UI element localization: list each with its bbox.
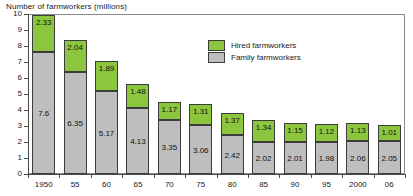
y-axis-tick-mark xyxy=(24,142,28,143)
y-axis-tick-label: 9 xyxy=(18,25,22,34)
bar-value-label-hired: 1.31 xyxy=(190,107,211,116)
x-axis-tick-mark xyxy=(28,175,29,178)
legend-item-family: Family farmworkers xyxy=(208,51,348,63)
bar-value-label-hired: 1.01 xyxy=(379,128,400,137)
bar-segment-hired[interactable]: 1.89 xyxy=(95,61,118,91)
bar-segment-hired[interactable]: 1.13 xyxy=(346,123,369,141)
bar-value-label-family: 4.13 xyxy=(127,137,148,146)
chart-title: Number of farmworkers (millions) xyxy=(6,2,127,11)
y-axis-tick-label: 2 xyxy=(18,137,22,146)
bar-group[interactable]: 2.051.01 xyxy=(378,14,401,174)
y-axis-line xyxy=(28,14,29,175)
x-axis-tick-label: 70 xyxy=(165,180,174,189)
y-axis-tick-label: 5 xyxy=(18,89,22,98)
bar-segment-family[interactable]: 2.05 xyxy=(378,141,401,174)
bar-segment-hired[interactable]: 1.01 xyxy=(378,125,401,141)
x-axis-tick-mark xyxy=(248,175,249,178)
y-axis-tick-mark xyxy=(24,78,28,79)
bar-value-label-hired: 1.17 xyxy=(159,105,180,114)
y-axis-tick-mark xyxy=(24,110,28,111)
bar-value-label-family: 2.01 xyxy=(285,154,306,163)
x-axis-tick-mark xyxy=(217,175,218,178)
x-axis-tick-label: 60 xyxy=(102,180,111,189)
bar-group[interactable]: 1.981.12 xyxy=(315,14,338,174)
bar-segment-family[interactable]: 2.02 xyxy=(252,142,275,174)
x-axis-tick-label: 2000 xyxy=(349,180,367,189)
bar-group[interactable]: 2.061.13 xyxy=(346,14,369,174)
bar-segment-family[interactable]: 1.98 xyxy=(315,142,338,174)
x-axis-tick-label: 95 xyxy=(322,180,331,189)
bar-segment-hired[interactable]: 1.37 xyxy=(221,113,244,135)
x-axis-tick-label: 65 xyxy=(134,180,143,189)
y-axis-tick-label: 1 xyxy=(18,153,22,162)
bar-group[interactable]: 2.021.34 xyxy=(252,14,275,174)
x-axis-tick-mark xyxy=(374,175,375,178)
bar-segment-hired[interactable]: 1.34 xyxy=(252,120,275,141)
bar-segment-hired[interactable]: 1.15 xyxy=(284,123,307,141)
bar-value-label-hired: 2.04 xyxy=(65,43,86,52)
bar-segment-family[interactable]: 6.35 xyxy=(64,72,87,174)
y-axis-tick-label: 0 xyxy=(18,169,22,178)
bar-value-label-family: 3.35 xyxy=(159,143,180,152)
y-axis-tick-mark xyxy=(24,14,28,15)
x-axis-tick-mark xyxy=(122,175,123,178)
bar-value-label-hired: 1.89 xyxy=(96,64,117,73)
bar-group[interactable]: 6.352.04 xyxy=(64,14,87,174)
legend-label-hired: Hired farmworkers xyxy=(231,41,296,50)
bar-segment-hired[interactable]: 2.33 xyxy=(32,15,55,52)
bar-segment-family[interactable]: 3.06 xyxy=(189,125,212,174)
bar-value-label-family: 2.06 xyxy=(347,154,368,163)
y-axis-tick-mark xyxy=(24,94,28,95)
bar-group[interactable]: 2.421.37 xyxy=(221,14,244,174)
legend-swatch-family-icon xyxy=(208,52,225,63)
bar-group[interactable]: 3.351.17 xyxy=(158,14,181,174)
bar-value-label-family: 6.35 xyxy=(65,119,86,128)
chart-legend: Hired farmworkers Family farmworkers xyxy=(208,39,348,63)
bar-group[interactable]: 5.171.89 xyxy=(95,14,118,174)
legend-label-family: Family farmworkers xyxy=(231,53,301,62)
bar-value-label-hired: 2.33 xyxy=(33,18,54,27)
x-axis-tick-label: 75 xyxy=(196,180,205,189)
bar-segment-family[interactable]: 3.35 xyxy=(158,120,181,174)
bar-value-label-hired: 1.15 xyxy=(285,126,306,135)
y-axis-tick-label: 4 xyxy=(18,105,22,114)
bar-group[interactable]: 4.131.48 xyxy=(126,14,149,174)
x-axis-tick-label: 90 xyxy=(291,180,300,189)
y-axis-tick-mark xyxy=(24,30,28,31)
bar-segment-family[interactable]: 5.17 xyxy=(95,91,118,174)
bar-value-label-family: 1.98 xyxy=(316,154,337,163)
bar-segment-family[interactable]: 2.42 xyxy=(221,135,244,174)
y-axis-tick-label: 8 xyxy=(18,41,22,50)
bar-value-label-hired: 1.48 xyxy=(127,87,148,96)
legend-item-hired: Hired farmworkers xyxy=(208,39,348,51)
chart-screenshot: Number of farmworkers (millions) 0123456… xyxy=(0,0,413,196)
bar-segment-hired[interactable]: 1.48 xyxy=(126,84,149,108)
y-axis-tick-label: 7 xyxy=(18,57,22,66)
y-axis-tick-mark xyxy=(24,62,28,63)
bar-segment-family[interactable]: 2.06 xyxy=(346,141,369,174)
bar-segment-hired[interactable]: 1.17 xyxy=(158,102,181,121)
x-axis-tick-mark xyxy=(185,175,186,178)
bar-value-label-family: 7.6 xyxy=(33,109,54,118)
y-axis-tick-mark xyxy=(24,46,28,47)
x-axis-tick-label: 1950 xyxy=(35,180,53,189)
bar-group[interactable]: 7.62.33 xyxy=(32,14,55,174)
bar-segment-family[interactable]: 7.6 xyxy=(32,52,55,174)
bar-value-label-family: 2.42 xyxy=(222,151,243,160)
x-axis-tick-mark xyxy=(405,175,406,178)
bar-segment-hired[interactable]: 2.04 xyxy=(64,40,87,73)
x-axis-tick-mark xyxy=(91,175,92,178)
legend-swatch-hired-icon xyxy=(208,40,225,51)
bar-group[interactable]: 2.011.15 xyxy=(284,14,307,174)
bar-segment-hired[interactable]: 1.12 xyxy=(315,124,338,142)
x-axis-tick-mark xyxy=(154,175,155,178)
bar-value-label-family: 2.05 xyxy=(379,154,400,163)
bar-segment-family[interactable]: 4.13 xyxy=(126,108,149,174)
bar-segment-family[interactable]: 2.01 xyxy=(284,142,307,174)
bar-value-label-hired: 1.13 xyxy=(347,126,368,135)
bar-group[interactable]: 3.061.31 xyxy=(189,14,212,174)
y-axis-tick-mark xyxy=(24,158,28,159)
x-axis-tick-label: 55 xyxy=(71,180,80,189)
bar-value-label-hired: 1.37 xyxy=(222,116,243,125)
bar-segment-hired[interactable]: 1.31 xyxy=(189,104,212,125)
